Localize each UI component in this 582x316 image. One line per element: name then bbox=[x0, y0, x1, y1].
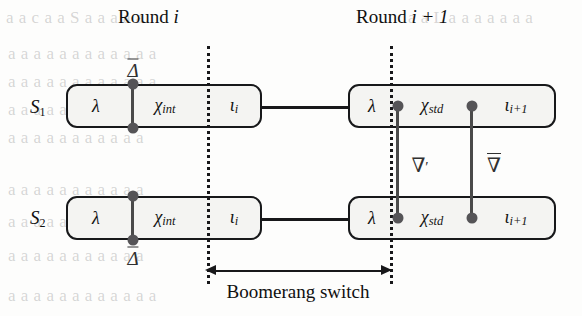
iota-subscript: i+1 bbox=[509, 102, 527, 116]
cell-s2-round-i-iota-i: ιi bbox=[230, 207, 239, 229]
chi-subscript: std bbox=[429, 102, 444, 116]
cell-s2-round-i1-iota-i1: ιi+1 bbox=[504, 207, 527, 229]
header-round-i1-prefix: Round bbox=[356, 6, 411, 27]
connector-s2-rounds bbox=[262, 218, 348, 221]
cell-s1-round-i-iota-i: ιi bbox=[230, 95, 239, 117]
iota-subscript: i bbox=[235, 102, 238, 116]
chi-glyph: χ bbox=[421, 95, 429, 115]
state-label-s2-name: S bbox=[30, 207, 40, 228]
boomerang-arrow-line bbox=[214, 270, 384, 272]
cell-s1-round-i1-iota-i1: ιi+1 bbox=[504, 95, 527, 117]
chi-glyph: χ bbox=[154, 95, 162, 115]
difference-connector-delta-s1 bbox=[131, 84, 134, 128]
header-round-i-index: i bbox=[173, 6, 178, 27]
page-bleed-line: a a a a a a a a a a a bbox=[8, 128, 144, 148]
state-label-s2-sub: 2 bbox=[40, 216, 46, 230]
header-round-i1-index: i + 1 bbox=[411, 6, 448, 27]
difference-connector-nabla-prime bbox=[396, 106, 399, 218]
round-separator-right bbox=[390, 46, 393, 284]
state-label-s1-name: S bbox=[30, 96, 40, 117]
node-dot-nabla-bar-top bbox=[466, 101, 477, 112]
symbol-nabla-prime: ∇′ bbox=[411, 153, 428, 177]
cell-s2-round-i1-lambda: λ bbox=[368, 208, 376, 229]
difference-connector-nabla-bar bbox=[470, 106, 473, 218]
state-label-s1: S1 bbox=[30, 96, 46, 120]
iota-subscript: i+1 bbox=[509, 214, 527, 228]
chi-subscript: int bbox=[162, 214, 175, 228]
chi-subscript: std bbox=[429, 214, 444, 228]
node-dot-delta-s2-bottom bbox=[128, 235, 139, 246]
chi-glyph: χ bbox=[421, 207, 429, 227]
round-separator-left bbox=[207, 46, 210, 284]
cell-s1-round-i-lambda: λ bbox=[92, 96, 100, 117]
symbol-delta-bar-bottom: Δ bbox=[127, 247, 138, 270]
delta-glyph: Δ bbox=[127, 247, 138, 269]
page-bleed-line: a a a a a a a a a a a a bbox=[8, 286, 157, 306]
state-label-s1-sub: 1 bbox=[40, 105, 46, 119]
connector-s1-rounds bbox=[262, 106, 348, 109]
cell-s2-round-i1-chi-std: χstd bbox=[421, 207, 444, 229]
boomerang-switch-caption: Boomerang switch bbox=[226, 281, 369, 303]
state-label-s2: S2 bbox=[30, 207, 46, 231]
symbol-delta-bar-top: Δ bbox=[127, 59, 138, 82]
cell-s2-round-i-lambda: λ bbox=[92, 208, 100, 229]
node-dot-nabla-prime-top bbox=[392, 101, 403, 112]
delta-glyph: Δ bbox=[127, 59, 138, 81]
lambda-glyph: λ bbox=[368, 96, 376, 116]
node-dot-nabla-prime-bottom bbox=[392, 213, 403, 224]
cell-s1-round-i-chi-int: χint bbox=[154, 95, 175, 117]
header-round-i-plus-1: Round i + 1 bbox=[356, 6, 449, 28]
cell-s1-round-i1-chi-std: χstd bbox=[421, 95, 444, 117]
node-dot-nabla-bar-bottom bbox=[466, 213, 477, 224]
cell-s1-round-i1-lambda: λ bbox=[368, 96, 376, 117]
boomerang-arrow-head-right bbox=[381, 265, 392, 275]
iota-subscript: i bbox=[235, 214, 238, 228]
page-bleed-line: a a a a a a a a a a a bbox=[8, 246, 144, 266]
chi-subscript: int bbox=[162, 102, 175, 116]
boomerang-arrow-head-left bbox=[205, 265, 216, 275]
figure-canvas: a a c a a S a a a a aa a L a a a a a a a… bbox=[0, 0, 582, 316]
node-dot-delta-s2-top bbox=[128, 191, 139, 202]
lambda-glyph: λ bbox=[92, 96, 100, 116]
header-round-i-prefix: Round bbox=[118, 6, 173, 27]
lambda-glyph: λ bbox=[92, 208, 100, 228]
nabla-glyph: ∇ bbox=[487, 153, 501, 176]
symbol-nabla-bar: ∇ bbox=[487, 153, 501, 177]
header-round-i: Round i bbox=[118, 6, 179, 28]
chi-glyph: χ bbox=[154, 207, 162, 227]
node-dot-delta-s1-bottom bbox=[128, 123, 139, 134]
cell-s2-round-i-chi-int: χint bbox=[154, 207, 175, 229]
nabla-glyph: ∇ bbox=[411, 154, 425, 176]
difference-connector-delta-s2 bbox=[131, 196, 134, 240]
lambda-glyph: λ bbox=[368, 208, 376, 228]
